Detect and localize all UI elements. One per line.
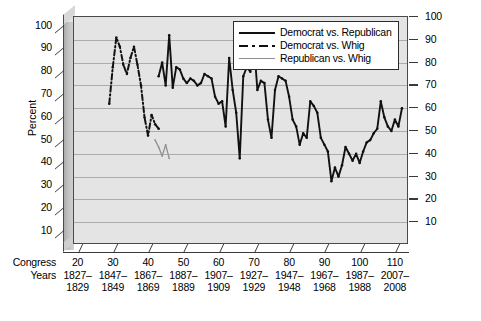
y-tick-mark-right bbox=[409, 221, 418, 222]
series-point bbox=[358, 162, 361, 165]
series-point bbox=[221, 100, 224, 103]
series-point bbox=[182, 77, 185, 80]
y-tick-label-right: 100 bbox=[425, 11, 465, 22]
series-point bbox=[136, 64, 139, 67]
legend-item-republican-vs-whig: Republican vs. Whig bbox=[239, 52, 392, 65]
series-point bbox=[320, 137, 323, 140]
series-point bbox=[158, 146, 160, 148]
series-point bbox=[242, 75, 245, 78]
series-point bbox=[193, 80, 196, 83]
y-tick-mark-right bbox=[409, 62, 418, 63]
series-point bbox=[164, 84, 167, 87]
series-point bbox=[274, 89, 277, 92]
chart-legend: Democrat vs. Republican Democrat vs. Whi… bbox=[233, 21, 399, 70]
series-point bbox=[214, 96, 217, 99]
series-point bbox=[186, 82, 189, 85]
series-point bbox=[284, 80, 287, 83]
y-tick-label-left: 10 bbox=[12, 225, 52, 236]
series-line bbox=[109, 38, 158, 136]
y-tick-label-right: 50 bbox=[425, 125, 465, 136]
series-point bbox=[154, 139, 156, 141]
series-point bbox=[387, 125, 390, 128]
y-tick-label-left: 90 bbox=[12, 42, 52, 53]
y-tick-label-left: 40 bbox=[12, 156, 52, 167]
series-point bbox=[119, 45, 122, 48]
series-point bbox=[235, 112, 238, 115]
series-point bbox=[224, 125, 227, 128]
legend-label: Democrat vs. Whig bbox=[280, 40, 364, 51]
y-tick-label-left: 30 bbox=[12, 179, 52, 190]
series-point bbox=[157, 127, 160, 130]
y-tick-label-right: 20 bbox=[425, 193, 465, 204]
series-point bbox=[228, 57, 231, 60]
series-point bbox=[231, 89, 234, 92]
series-point bbox=[189, 77, 192, 80]
y-tick-label-right: 60 bbox=[425, 102, 465, 113]
series-point bbox=[394, 118, 397, 121]
series-point bbox=[168, 34, 171, 37]
series-point bbox=[309, 100, 312, 103]
y-tick-label-right: 90 bbox=[425, 34, 465, 45]
series-point bbox=[249, 70, 252, 73]
series-point bbox=[112, 66, 115, 69]
series-point bbox=[126, 73, 129, 76]
legend-item-democrat-vs-republican: Democrat vs. Republican bbox=[239, 26, 392, 39]
y-axis-title: Percent bbox=[26, 100, 38, 136]
series-point bbox=[260, 80, 263, 83]
series-point bbox=[133, 45, 136, 48]
series-point bbox=[203, 73, 206, 76]
series-point bbox=[330, 180, 333, 183]
y-tick-mark-right bbox=[409, 16, 418, 17]
y-tick-mark-right bbox=[409, 176, 418, 177]
series-point bbox=[175, 66, 178, 69]
series-point bbox=[341, 164, 344, 167]
legend-key-dash-dot bbox=[239, 40, 275, 51]
series-point bbox=[165, 144, 167, 146]
series-point bbox=[150, 114, 153, 117]
series-point bbox=[154, 123, 157, 126]
series-point bbox=[302, 132, 305, 135]
legend-key-solid-thick bbox=[239, 27, 275, 38]
series-point bbox=[323, 143, 326, 146]
series-point bbox=[281, 77, 284, 80]
y-tick-label-left: 20 bbox=[12, 202, 52, 213]
series-point bbox=[147, 134, 150, 137]
legend-label: Democrat vs. Republican bbox=[280, 27, 392, 38]
series-point bbox=[383, 116, 386, 119]
series-point bbox=[179, 68, 182, 71]
y-tick-label-right: 40 bbox=[425, 148, 465, 159]
y-tick-mark-right bbox=[409, 198, 418, 199]
x-tick-congress: 110 bbox=[372, 256, 418, 269]
row-header-years: Years bbox=[0, 269, 56, 282]
x-axis-line bbox=[63, 252, 409, 253]
series-point bbox=[291, 118, 294, 121]
series-point bbox=[161, 155, 163, 157]
series-point bbox=[157, 75, 160, 78]
series-point bbox=[207, 75, 210, 78]
series-point bbox=[263, 82, 266, 85]
series-point bbox=[316, 112, 319, 115]
legend-label: Republican vs. Whig bbox=[280, 53, 371, 64]
y-tick-mark-right bbox=[409, 84, 418, 85]
series-point bbox=[305, 137, 308, 140]
series-point bbox=[108, 102, 111, 105]
series-point bbox=[337, 175, 340, 178]
series-point bbox=[161, 61, 164, 64]
series-point bbox=[129, 57, 132, 60]
series-point bbox=[288, 96, 291, 99]
y-tick-label-left: 100 bbox=[12, 20, 52, 31]
series-point bbox=[372, 132, 375, 135]
series-point bbox=[401, 107, 404, 110]
series-point bbox=[295, 125, 298, 128]
y-tick-mark-right bbox=[409, 130, 418, 131]
series-point bbox=[256, 89, 259, 92]
series-point bbox=[270, 137, 273, 140]
series-point bbox=[334, 166, 337, 169]
series-point bbox=[143, 116, 146, 119]
series-point bbox=[217, 102, 220, 105]
series-point bbox=[122, 64, 125, 67]
series-point bbox=[140, 84, 143, 87]
series-point bbox=[171, 86, 174, 89]
series-point bbox=[365, 141, 368, 144]
series-point bbox=[200, 82, 203, 85]
